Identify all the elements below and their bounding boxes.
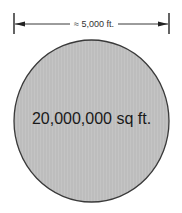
diagram-graphic [0, 0, 182, 213]
left-arrow-icon [15, 22, 25, 27]
area-diagram: ≈ 5,000 ft. 20,000,000 sq ft. [0, 0, 182, 213]
dimension-label: ≈ 5,000 ft. [70, 17, 118, 31]
area-label: 20,000,000 sq ft. [14, 109, 169, 129]
right-arrow-icon [158, 22, 168, 27]
